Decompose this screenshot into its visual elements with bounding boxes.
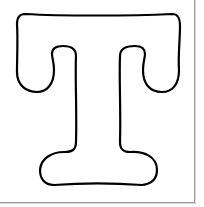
- letter-t-path: [17, 14, 180, 185]
- letter-t-outline: [0, 0, 204, 207]
